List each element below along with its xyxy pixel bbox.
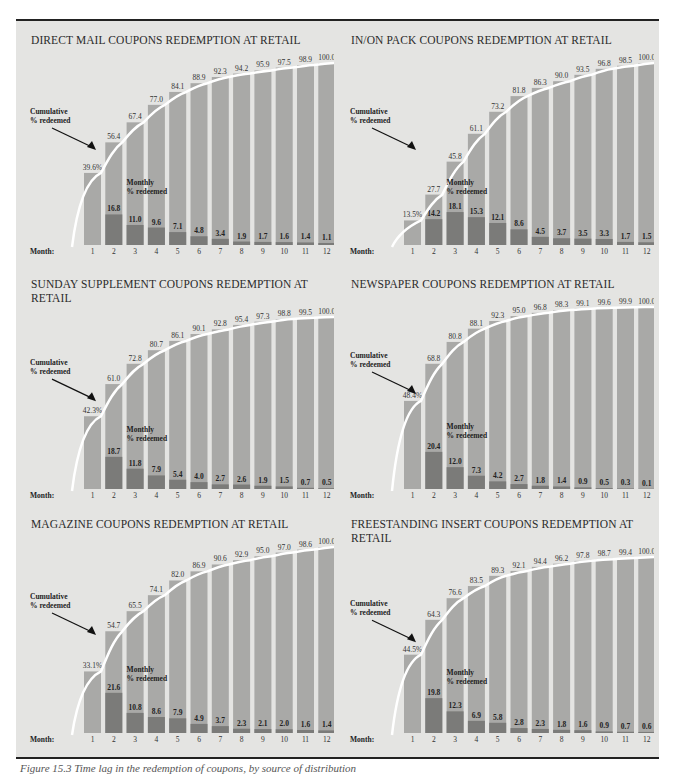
month-tick-label: 9 [581, 491, 585, 500]
bar-month-10: 0.599.610 [596, 298, 613, 500]
month-tick-label: 3 [453, 735, 457, 744]
monthly-value-label: 2.8 [514, 718, 524, 727]
monthly-value-label: 1.4 [301, 232, 311, 241]
monthly-value-label: 0.6 [642, 722, 652, 731]
month-tick-label: 9 [261, 491, 265, 500]
month-tick-label: 12 [643, 247, 651, 256]
cumulative-value-label: 88.9 [192, 73, 205, 82]
month-tick-label: 7 [218, 491, 222, 500]
bar-month-10: 2.097.010 [276, 543, 293, 744]
month-tick-label: 3 [133, 735, 137, 744]
month-tick-label: 12 [323, 735, 331, 744]
monthly-value-label: 18.7 [107, 447, 120, 456]
month-axis-label: Month: [30, 735, 54, 744]
bar-month-9: 0.999.19 [574, 299, 591, 500]
cumulative-annotation: Cumulative [350, 107, 388, 116]
month-tick-label: 12 [323, 247, 331, 256]
cumulative-value-label: 90.1 [192, 324, 205, 333]
monthly-value-label: 1.6 [578, 720, 588, 729]
monthly-value-label: 1.6 [280, 232, 290, 241]
bar-month-4: 9.677.04 [148, 95, 165, 256]
monthly-value-label: 7.9 [152, 465, 162, 474]
month-tick-label: 1 [91, 491, 95, 500]
chart-panel-in-on-pack: IN/ON PACK COUPONS REDEMPTION AT RETAIL … [336, 21, 654, 257]
monthly-value-label: 7.3 [472, 466, 482, 475]
cumulative-annotation: Cumulative [350, 351, 388, 360]
month-tick-label: 11 [302, 491, 309, 500]
bar-month-11: 0.799.511 [297, 308, 314, 500]
cumulative-annotation: Cumulative [30, 358, 68, 367]
cumulative-value-label: 99.6 [598, 298, 611, 307]
cumulative-annotation: % redeemed [350, 360, 391, 369]
cumulative-value-label: 61.1 [470, 124, 483, 133]
monthly-value-label: 11.8 [129, 459, 142, 468]
monthly-value-label: 3.5 [578, 229, 588, 238]
monthly-value-label: 1.4 [557, 476, 567, 485]
monthly-value-label: 2.0 [280, 719, 290, 728]
bar-month-12: 1.1100.012 [318, 53, 334, 256]
bar-month-8: 1.896.28 [553, 554, 570, 744]
monthly-value-label: 1.7 [621, 232, 631, 241]
month-tick-label: 5 [496, 735, 500, 744]
month-tick-label: 3 [133, 247, 137, 256]
cumulative-value-label: 95.0 [512, 306, 525, 315]
cumulative-value-label: 95.4 [235, 315, 248, 324]
month-tick-label: 5 [496, 491, 500, 500]
monthly-value-label: 2.7 [514, 474, 524, 483]
bar-month-1: 39.6%1 [83, 163, 102, 256]
monthly-value-label: 2.3 [536, 719, 546, 728]
chart-svg: 48.4%120.468.8212.080.837.388.144.292.35… [336, 265, 654, 501]
chart-panel-magazine: MAGAZINE COUPONS REDEMPTION AT RETAIL 33… [16, 505, 334, 745]
monthly-annotation: % redeemed [447, 677, 488, 686]
monthly-value-label: 4.0 [194, 472, 204, 481]
figure-caption: Figure 15.3 Time lag in the redemption o… [20, 762, 356, 774]
bar-month-10: 0.998.710 [596, 549, 613, 744]
bar-month-8: 2.695.48 [233, 315, 250, 500]
monthly-value-label: 0.7 [621, 722, 631, 731]
month-tick-label: 7 [538, 247, 542, 256]
month-tick-label: 8 [560, 247, 564, 256]
month-tick-label: 10 [600, 735, 608, 744]
cumulative-value-label: 92.3 [491, 311, 504, 320]
cumulative-value-label: 80.7 [150, 340, 163, 349]
cumulative-value-label: 98.3 [555, 300, 568, 309]
monthly-value-label: 1.5 [642, 232, 652, 241]
monthly-annotation: % redeemed [127, 434, 168, 443]
month-tick-label: 11 [622, 735, 629, 744]
bar-month-6: 4.986.96 [191, 561, 208, 744]
monthly-value-label: 1.8 [557, 720, 567, 729]
cumulative-value-label: 88.1 [470, 319, 483, 328]
month-tick-label: 9 [581, 247, 585, 256]
month-tick-label: 7 [538, 735, 542, 744]
cumulative-value-label: 77.0 [150, 95, 163, 104]
arrow-icon [52, 379, 94, 399]
monthly-annotation: Monthly [447, 668, 475, 677]
month-tick-label: 7 [538, 491, 542, 500]
cumulative-value-label: 93.5 [576, 65, 589, 74]
bar-month-12: 0.6100.012 [638, 547, 654, 744]
cumulative-value-label: 13.5% [403, 210, 422, 219]
month-tick-label: 2 [112, 735, 116, 744]
month-tick-label: 4 [155, 735, 159, 744]
monthly-value-label: 3.7 [557, 228, 567, 237]
month-tick-label: 6 [197, 247, 201, 256]
monthly-annotation: % redeemed [127, 674, 168, 683]
cumulative-value-label: 65.5 [129, 601, 142, 610]
monthly-value-label: 1.9 [237, 232, 247, 241]
cumulative-value-label: 68.8 [427, 354, 440, 363]
arrow-icon [52, 128, 94, 148]
monthly-value-label: 2.6 [237, 475, 247, 484]
monthly-value-label: 0.7 [301, 478, 311, 487]
month-tick-label: 10 [280, 247, 288, 256]
month-tick-label: 9 [261, 735, 265, 744]
cumulative-value-label: 81.8 [512, 86, 525, 95]
cumulative-value-label: 86.1 [171, 331, 184, 340]
bar-month-5: 5.889.35 [489, 566, 506, 744]
monthly-value-label: 9.6 [152, 218, 162, 227]
cumulative-annotation: Cumulative [30, 107, 68, 116]
cumulative-value-label: 97.0 [278, 543, 291, 552]
bar-month-6: 2.795.06 [511, 306, 528, 500]
cumulative-value-label: 86.9 [192, 561, 205, 570]
month-tick-label: 2 [432, 491, 436, 500]
bar-month-11: 0.799.411 [617, 548, 634, 744]
